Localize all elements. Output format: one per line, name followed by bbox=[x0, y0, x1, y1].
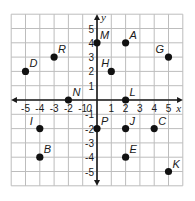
point-label: N bbox=[72, 86, 80, 98]
x-tick-label: 1 bbox=[109, 103, 115, 114]
y-axis-label: y bbox=[100, 11, 106, 23]
y-tick-label: 2 bbox=[88, 66, 94, 77]
point-C: C bbox=[151, 115, 167, 133]
point-label: A bbox=[129, 29, 137, 41]
x-axis-label: x bbox=[175, 102, 181, 114]
y-tick-label: 1 bbox=[88, 81, 94, 92]
point-label: H bbox=[101, 57, 109, 69]
point-A: A bbox=[122, 29, 137, 47]
point-N: N bbox=[65, 86, 81, 104]
coordinate-plane: xy -5-4-3-2-101234554321-1-2-3-4-5 MAGHR… bbox=[0, 0, 195, 201]
point-J: J bbox=[122, 115, 136, 133]
x-tick-label: -5 bbox=[21, 103, 30, 114]
point-label: B bbox=[44, 143, 51, 155]
y-tick-label: -1 bbox=[85, 109, 94, 120]
x-tick-label: 3 bbox=[137, 103, 143, 114]
x-axis-left-arrow-icon bbox=[11, 97, 17, 103]
point-marker bbox=[36, 154, 43, 161]
point-label: D bbox=[30, 57, 38, 69]
point-H: H bbox=[101, 57, 115, 75]
point-R: R bbox=[51, 43, 67, 61]
x-tick-label: -3 bbox=[50, 103, 59, 114]
point-marker bbox=[51, 54, 58, 61]
x-tick-label: 5 bbox=[166, 103, 172, 114]
point-label: E bbox=[130, 143, 138, 155]
axes: xy bbox=[11, 11, 183, 186]
point-label: L bbox=[130, 86, 136, 98]
point-marker bbox=[122, 125, 129, 132]
point-marker bbox=[165, 54, 172, 61]
point-I: I bbox=[30, 115, 44, 133]
point-D: D bbox=[22, 57, 38, 75]
point-G: G bbox=[156, 43, 173, 61]
point-label: M bbox=[100, 29, 110, 41]
point-M: M bbox=[93, 29, 110, 47]
y-tick-label: -3 bbox=[85, 138, 94, 149]
y-tick-label: -4 bbox=[85, 152, 94, 163]
y-axis-down-arrow-icon bbox=[94, 180, 100, 186]
y-tick-label: -2 bbox=[85, 124, 94, 135]
point-E: E bbox=[122, 143, 138, 161]
point-label: C bbox=[158, 115, 166, 127]
point-label: P bbox=[101, 115, 109, 127]
point-marker bbox=[65, 96, 72, 103]
point-marker bbox=[22, 68, 29, 75]
point-label: I bbox=[30, 115, 33, 127]
point-marker bbox=[151, 125, 158, 132]
point-label: G bbox=[156, 43, 165, 55]
x-tick-label: 2 bbox=[123, 103, 129, 114]
point-marker bbox=[165, 168, 172, 175]
point-label: K bbox=[173, 158, 181, 170]
y-tick-label: 3 bbox=[88, 52, 94, 63]
point-B: B bbox=[36, 143, 51, 161]
point-marker bbox=[36, 125, 43, 132]
x-tick-label: -2 bbox=[64, 103, 73, 114]
x-tick-label: 4 bbox=[151, 103, 157, 114]
point-K: K bbox=[165, 158, 181, 176]
point-label: R bbox=[58, 43, 66, 55]
point-label: J bbox=[129, 115, 136, 127]
y-axis-up-arrow-icon bbox=[94, 14, 100, 20]
y-tick-label: 5 bbox=[88, 24, 94, 35]
point-marker bbox=[122, 154, 129, 161]
point-marker bbox=[122, 96, 129, 103]
point-L: L bbox=[122, 86, 136, 104]
point-marker bbox=[93, 125, 100, 132]
data-points: MAGHRDNLIPJCBEK bbox=[22, 29, 181, 175]
point-marker bbox=[122, 39, 129, 46]
x-tick-label: -4 bbox=[35, 103, 44, 114]
point-P: P bbox=[93, 115, 109, 133]
y-tick-label: -5 bbox=[85, 167, 94, 178]
